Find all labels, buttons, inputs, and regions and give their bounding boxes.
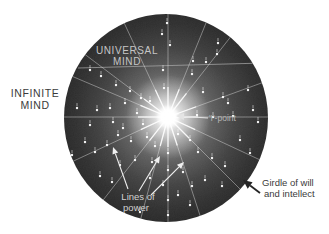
universal-mind-label-line1: UNIVERSAL	[96, 45, 158, 56]
diagram-canvas: UNIVERSAL MIND INFINITE MIND 'I'-point L…	[0, 0, 329, 234]
lines-of-power-label-line1: Lines of	[121, 191, 155, 202]
i-point-label: 'I'-point	[209, 113, 237, 123]
mind-diagram: UNIVERSAL MIND INFINITE MIND 'I'-point L…	[0, 0, 329, 234]
infinite-mind-label-line1: INFINITE	[11, 87, 60, 99]
girdle-label-line2: and intellect	[264, 188, 315, 199]
infinite-mind-label-line2: MIND	[20, 99, 49, 111]
girdle-label-line1: Girdle of will	[262, 177, 314, 188]
lines-of-power-label-line2: power	[123, 202, 149, 213]
girdle-arrow-shaft	[250, 185, 260, 193]
universal-mind-label-line2: MIND	[113, 56, 141, 67]
